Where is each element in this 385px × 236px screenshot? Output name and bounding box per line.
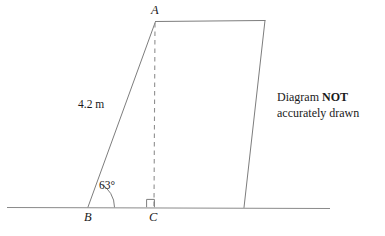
segment-ac-height-dashed	[154, 23, 155, 206]
note-line-1-prefix: Diagram	[277, 90, 322, 104]
note-line-1-emphasis: NOT	[322, 90, 348, 104]
vertex-label-c: C	[149, 211, 157, 224]
right-angle-marker-c	[147, 199, 155, 207]
geometry-diagram: A B C 4.2 m 63° Diagram NOT accurately d…	[0, 0, 385, 236]
segment-a-top-right	[156, 21, 266, 22]
vertex-label-b: B	[84, 211, 92, 224]
note-line-2: accurately drawn	[277, 106, 359, 122]
ground-line	[7, 208, 330, 209]
segment-right-edge	[244, 21, 265, 208]
angle-measure-label: 63°	[99, 180, 115, 192]
diagram-not-accurate-note: Diagram NOT accurately drawn	[277, 90, 359, 122]
note-line-1: Diagram NOT	[277, 90, 359, 106]
vertex-label-a: A	[151, 4, 159, 17]
side-length-label: 4.2 m	[78, 99, 104, 111]
